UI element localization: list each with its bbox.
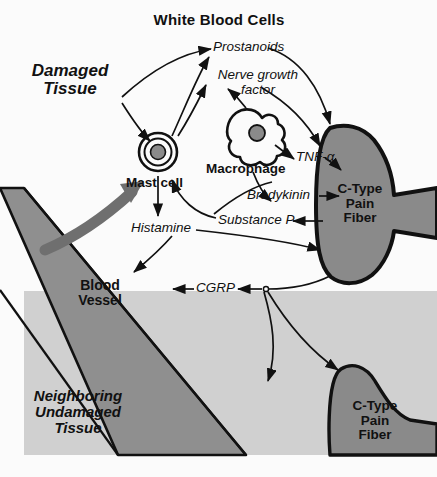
cgrp-junction-node xyxy=(263,286,268,291)
mast-cell-nucleus xyxy=(151,145,166,160)
diagram-canvas xyxy=(0,0,437,477)
pathway-diagram: White Blood Cells Damaged Tissue Prostan… xyxy=(0,0,437,477)
macrophage-nucleus xyxy=(249,125,265,141)
